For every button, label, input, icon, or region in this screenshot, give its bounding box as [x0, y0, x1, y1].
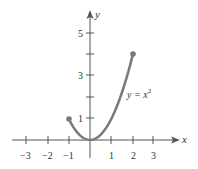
equation-exponent: 2: [148, 87, 152, 95]
y-tick-label: 3: [78, 70, 83, 81]
equation-label: y = x2: [126, 87, 152, 100]
y-tick-label: 1: [78, 113, 83, 124]
equation-main: y = x: [126, 89, 148, 100]
x-tick-label: 1: [109, 150, 114, 161]
parabola-chart: x y −3 −2 −1 1 2 3 1 3 5 y = x2: [0, 0, 198, 169]
x-tick-label: 3: [151, 150, 156, 161]
endpoint-right: [130, 51, 136, 57]
x-tick-label: −3: [20, 150, 31, 161]
endpoint-left: [66, 116, 72, 122]
y-tick-label: 5: [78, 28, 83, 39]
parabola-curve: [69, 54, 134, 140]
x-tick-label: −1: [63, 150, 74, 161]
x-axis-label: x: [181, 133, 187, 145]
y-axis-label: y: [94, 8, 100, 20]
x-tick-label: 2: [131, 150, 136, 161]
x-tick-label: −2: [42, 150, 53, 161]
